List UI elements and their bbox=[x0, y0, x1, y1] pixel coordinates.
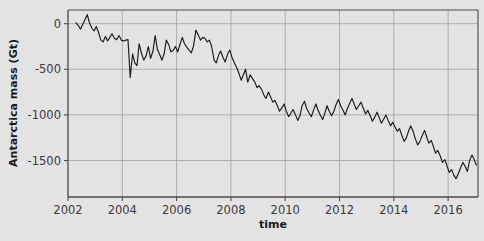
y-tick-label: -1000 bbox=[28, 108, 61, 122]
x-axis-title: time bbox=[259, 218, 287, 231]
x-tick-label: 2016 bbox=[433, 203, 462, 217]
x-tick-label: 2006 bbox=[162, 203, 191, 217]
y-axis-title: Antarctica mass (Gt) bbox=[7, 39, 20, 167]
x-tick-label: 2010 bbox=[271, 203, 300, 217]
y-tick-label: -1500 bbox=[28, 154, 61, 168]
y-tick-label: 0 bbox=[54, 17, 61, 31]
x-tick-label: 2002 bbox=[53, 203, 82, 217]
y-tick-label: -500 bbox=[35, 62, 61, 76]
plot-area-background bbox=[68, 10, 478, 197]
x-tick-label: 2012 bbox=[325, 203, 354, 217]
matplotlib-figure: 0-500-1000-1500 200220042006200820102012… bbox=[0, 0, 484, 241]
x-tick-label: 2004 bbox=[108, 203, 137, 217]
x-tick-label: 2008 bbox=[216, 203, 245, 217]
x-tick-label: 2014 bbox=[379, 203, 408, 217]
antarctica-mass-line-chart: 0-500-1000-1500 200220042006200820102012… bbox=[0, 0, 484, 241]
